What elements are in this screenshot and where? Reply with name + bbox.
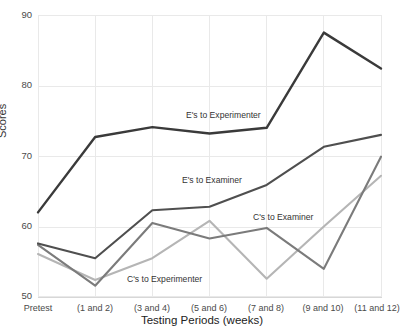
- series-line-c-s-to-experimenter: [38, 176, 381, 280]
- series-line-e-s-to-experimenter: [38, 33, 381, 213]
- series-label-cs-to-experimenter: C's to Experimenter: [127, 274, 202, 284]
- series-label-es-to-experimenter: E's to Experimenter: [186, 110, 261, 120]
- series-line-e-s-to-examiner: [38, 135, 381, 258]
- series-label-cs-to-examiner: C's to Examiner: [253, 212, 313, 222]
- series-label-es-to-examiner: E's to Examiner: [182, 175, 242, 185]
- line-chart: 90 80 70 60 50 Pretest (1 and 2) (3 and …: [0, 0, 404, 332]
